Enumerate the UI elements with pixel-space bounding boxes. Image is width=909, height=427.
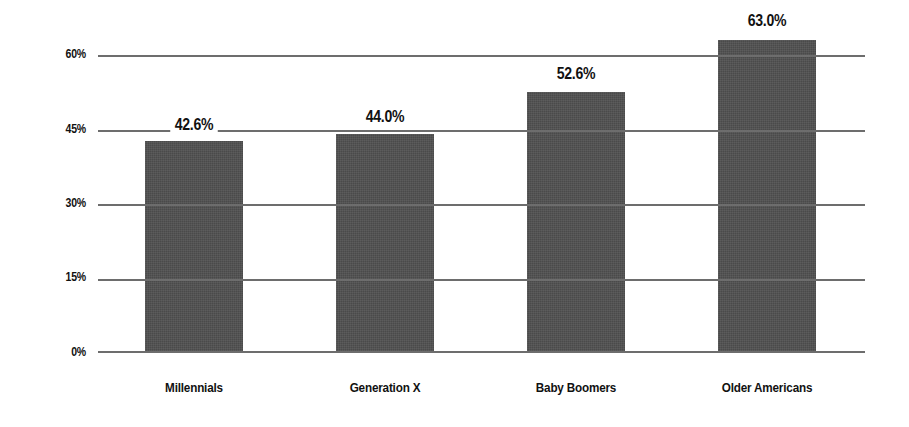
x-label-baby-boomers: Baby Boomers xyxy=(532,381,620,395)
value-label-millennials: 42.6% xyxy=(151,116,237,134)
value-label-baby-boomers: 52.6% xyxy=(533,65,619,83)
bar-millennials[interactable] xyxy=(145,141,243,353)
value-label-baby-boomers-text: 52.6% xyxy=(552,65,599,83)
gridline-15 xyxy=(98,279,865,281)
y-tick-label-15: 15% xyxy=(39,271,86,284)
x-label-millennials: Millennials xyxy=(150,381,238,395)
bar-chart: 60% 45% 30% 15% 0% 42.6% 44.0% 52.6% 63.… xyxy=(0,0,909,427)
y-tick-label-0: 0% xyxy=(39,346,86,359)
gridline-30 xyxy=(98,204,865,206)
y-tick-label-45: 45% xyxy=(39,123,86,136)
bar-generation-x[interactable] xyxy=(336,134,434,353)
plot-area xyxy=(98,55,865,353)
value-label-older-americans-text: 63.0% xyxy=(743,12,790,30)
x-label-generation-x: Generation X xyxy=(341,381,429,395)
value-label-generation-x-text: 44.0% xyxy=(361,108,408,126)
y-axis: 60% 45% 30% 15% 0% xyxy=(30,0,86,427)
value-label-older-americans: 63.0% xyxy=(724,12,810,30)
value-label-generation-x: 44.0% xyxy=(342,108,428,126)
axis-baseline xyxy=(98,351,865,353)
gridline-60 xyxy=(98,55,865,57)
y-tick-label-60: 60% xyxy=(39,48,86,61)
x-label-older-americans: Older Americans xyxy=(716,381,819,395)
x-axis: Millennials Generation X Baby Boomers Ol… xyxy=(98,381,865,411)
value-label-millennials-text: 42.6% xyxy=(170,116,217,134)
bar-older-americans[interactable] xyxy=(718,40,816,353)
y-tick-label-30: 30% xyxy=(39,197,86,210)
